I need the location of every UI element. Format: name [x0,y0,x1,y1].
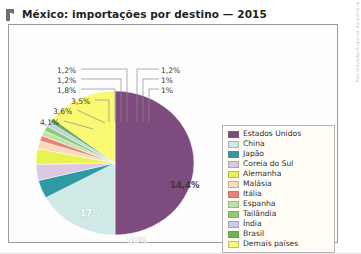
legend-item: Malásia [228,179,330,189]
slice-value-estados-unidos: 50% [127,236,147,246]
pie-slice [115,91,194,235]
page-title: México: importações por destino — 2015 [5,3,340,25]
legend-label: Estados Unidos [243,129,301,139]
callout-left-1: 1,2% [57,66,76,75]
legend-swatch [228,241,239,248]
legend-label: Itália [243,189,262,199]
legend-swatch [228,201,239,208]
legend-item: Itália [228,189,330,199]
legend-swatch [228,161,239,168]
chart-frame: 50% 17% 14,4% 1,2% 1,2% 1,8% 3,5% 3,6% 4… [8,24,338,243]
callout-left-6: 4,1% [40,118,59,127]
legend-label: Alemanha [243,169,281,179]
legend-label: Japão [243,149,264,159]
callout-right-2: 1% [161,76,173,85]
legend-item: Coreia do Sul [228,159,330,169]
flag-marker-icon [5,7,16,20]
legend-item: Japão [228,149,330,159]
legend-item: Estados Unidos [228,129,330,139]
legend-label: Demais países [243,239,298,249]
legend-item: Espanha [228,199,330,209]
legend-label: Coreia do Sul [243,159,293,169]
legend-item: Tailândia [228,209,330,219]
legend-swatch [228,221,239,228]
legend-swatch [228,231,239,238]
legend-item: Alemanha [228,169,330,179]
legend-swatch [228,171,239,178]
callout-left-3: 1,8% [57,86,76,95]
callout-left-5: 3,6% [53,107,72,116]
callout-left-2: 1,2% [57,76,76,85]
legend-swatch [228,211,239,218]
chart-legend: Estados UnidosChinaJapãoCoreia do SulAle… [222,125,335,253]
page-title-text: México: importações por destino — 2015 [22,8,267,20]
figure-page: México: importações por destino — 2015 5… [0,0,361,254]
callout-right-3: 1% [161,86,173,95]
callout-right-1: 1,2% [161,66,180,75]
legend-swatch [228,131,239,138]
legend-label: Espanha [243,199,276,209]
slice-value-demais-paises: 14,4% [170,180,200,190]
legend-item: Demais países [228,239,330,249]
legend-label: China [243,139,265,149]
legend-swatch [228,181,239,188]
legend-label: Brasil [243,229,264,239]
legend-swatch [228,141,239,148]
legend-swatch [228,191,239,198]
legend-label: Índia [243,219,262,229]
legend-item: Brasil [228,229,330,239]
callout-left-4: 3,5% [71,97,90,106]
slice-value-china: 17% [80,208,100,218]
legend-item: Índia [228,219,330,229]
legend-swatch [228,151,239,158]
legend-label: Malásia [243,179,272,189]
source-credit: Reprodução/Arquivo da editora [355,2,360,82]
legend-item: China [228,139,330,149]
legend-label: Tailândia [243,209,276,219]
